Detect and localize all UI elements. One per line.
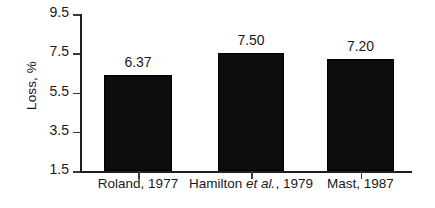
y-tick-mark — [73, 53, 80, 55]
y-axis-line — [80, 14, 82, 173]
y-tick-mark — [73, 93, 80, 95]
y-tick-label: 5.5 — [50, 83, 69, 99]
plot-area: 9.57.55.53.51.5 6.377.507.20 — [80, 14, 412, 172]
y-axis-label: Loss, % — [24, 41, 39, 131]
y-tick-label: 3.5 — [50, 122, 69, 138]
bar — [327, 59, 394, 171]
x-category-label: Mast, 1987 — [286, 176, 435, 191]
x-axis-line — [80, 171, 412, 173]
y-tick-label: 9.5 — [50, 4, 69, 20]
bar-chart: Loss, % 9.57.55.53.51.5 6.377.507.20 Rol… — [0, 0, 435, 208]
y-tick-label: 1.5 — [50, 161, 69, 177]
y-tick-mark — [73, 171, 80, 173]
y-tick-label: 7.5 — [50, 43, 69, 59]
y-tick-mark — [73, 14, 80, 16]
bar — [104, 75, 172, 171]
bar-value-label: 7.20 — [327, 38, 394, 54]
bar-value-label: 7.50 — [218, 32, 284, 48]
bar — [218, 53, 284, 171]
category-label-italic: et al. — [246, 176, 275, 191]
y-tick-mark — [73, 132, 80, 134]
bar-value-label: 6.37 — [104, 54, 172, 70]
